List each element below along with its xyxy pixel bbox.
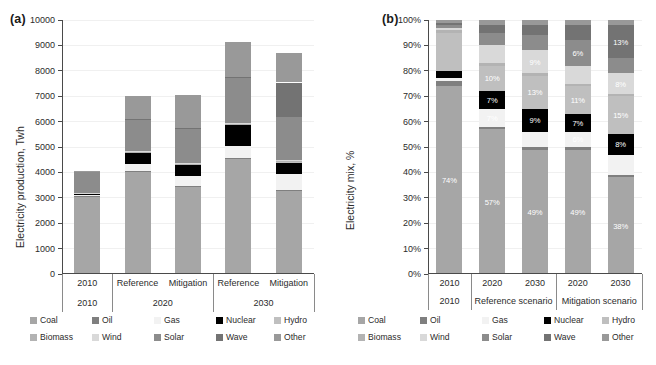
bar-segment-biomass[interactable] [125,152,151,153]
bar-segment-other[interactable] [225,42,251,76]
bar-segment-nuclear[interactable] [125,153,151,164]
bar-segment-oil[interactable] [74,196,100,197]
bar-segment-hydro[interactable]: 10% [479,66,505,91]
bar-segment-gas[interactable] [175,176,201,186]
bar-segment-wave[interactable] [125,119,151,120]
bar-segment-solar[interactable] [436,25,462,28]
legend-item[interactable]: Biomass [30,333,73,342]
bar-segment-oil[interactable] [125,171,151,172]
bar-segment-other[interactable] [608,20,634,25]
legend-item[interactable]: Coal [358,316,386,325]
bar-segment-hydro[interactable]: 15% [608,96,634,134]
bar-segment-hydro[interactable] [74,193,100,194]
bar-segment-gas[interactable] [436,78,462,81]
bar-segment-hydro[interactable]: 11% [565,86,591,114]
legend-item[interactable]: Wave [216,333,248,342]
legend-item[interactable]: Wind [92,333,122,342]
bar-segment-biomass[interactable] [565,84,591,87]
legend-item[interactable]: Solar [154,333,184,342]
bar-segment-coal[interactable]: 49% [565,150,591,274]
legend-item[interactable]: Oil [92,316,113,325]
bar-segment-gas[interactable] [522,132,548,147]
bar-segment-solar[interactable] [74,172,100,193]
bar-segment-other[interactable] [522,20,548,25]
bar-segment-biomass[interactable] [522,73,548,76]
bar-segment-solar[interactable] [225,77,251,123]
bar-segment-nuclear[interactable]: 8% [608,134,634,154]
bar-segment-hydro[interactable] [225,124,251,125]
bar-segment-wind[interactable] [125,151,151,152]
bar-segment-wind[interactable] [436,28,462,31]
bar-segment-coal[interactable]: 38% [608,177,634,274]
bar-segment-hydro[interactable] [276,161,302,162]
bar-segment-gas[interactable]: 7% [479,109,505,127]
bar-segment-solar[interactable]: 6% [565,40,591,65]
stacked-bar[interactable] [125,20,151,274]
bar-segment-wind[interactable] [225,123,251,124]
legend-item[interactable]: Wave [544,333,576,342]
bar-segment-wave[interactable] [565,25,591,40]
stacked-bar[interactable] [276,20,302,274]
bar-segment-wind[interactable] [479,45,505,63]
bar-segment-oil[interactable] [608,175,634,178]
bar-segment-solar[interactable] [608,58,634,73]
bar-segment-coal[interactable]: 74% [436,86,462,274]
bar-segment-hydro[interactable] [175,164,201,165]
legend-item[interactable]: Nuclear [544,316,584,325]
bar-segment-oil[interactable] [436,81,462,86]
bar-segment-other[interactable] [125,96,151,119]
legend-item[interactable]: Other [274,333,306,342]
legend-item[interactable]: Coal [30,316,58,325]
bar-segment-solar[interactable] [522,35,548,50]
bar-segment-nuclear[interactable] [436,71,462,79]
bar-segment-coal[interactable] [175,187,201,274]
bar-segment-nuclear[interactable] [74,194,100,196]
bar-segment-coal[interactable] [276,191,302,274]
bar-segment-coal[interactable]: 57% [479,129,505,274]
bar-segment-wave[interactable] [276,83,302,118]
bar-segment-other[interactable] [565,20,591,25]
bar-segment-coal[interactable] [74,196,100,274]
bar-segment-biomass[interactable] [479,63,505,66]
stacked-bar[interactable]: 49%6%7%11%6% [565,20,591,274]
bar-segment-wave[interactable] [479,25,505,33]
stacked-bar[interactable] [74,20,100,274]
bar-segment-nuclear[interactable]: 9% [522,109,548,132]
bar-segment-oil[interactable] [522,147,548,150]
bar-segment-biomass[interactable] [225,124,251,125]
bar-segment-wave[interactable]: 13% [608,25,634,58]
legend-item[interactable]: Biomass [358,333,401,342]
bar-segment-gas[interactable] [608,155,634,175]
bar-segment-oil[interactable] [479,127,505,130]
bar-segment-other[interactable] [436,20,462,23]
legend-item[interactable]: Wind [420,333,450,342]
legend-item[interactable]: Solar [482,333,512,342]
bar-segment-biomass[interactable] [276,161,302,162]
legend-item[interactable]: Gas [482,316,508,325]
bar-segment-gas[interactable] [125,164,151,171]
bar-segment-wave[interactable] [225,77,251,78]
stacked-bar[interactable]: 38%8%15%8%13% [608,20,634,274]
bar-segment-hydro[interactable]: 13% [522,76,548,109]
bar-segment-coal[interactable] [125,171,151,274]
bar-segment-other[interactable] [479,20,505,25]
bar-segment-solar[interactable] [125,120,151,151]
stacked-bar[interactable]: 57%7%7%10% [479,20,505,274]
bar-segment-coal[interactable]: 49% [522,150,548,274]
bar-segment-oil[interactable] [225,158,251,159]
legend-item[interactable]: Other [602,333,634,342]
bar-segment-oil[interactable] [175,186,201,187]
bar-segment-solar[interactable] [276,117,302,160]
bar-segment-nuclear[interactable]: 7% [565,114,591,132]
legend-item[interactable]: Hydro [602,316,635,325]
bar-segment-wind[interactable]: 9% [522,50,548,73]
stacked-bar[interactable] [225,20,251,274]
bar-segment-solar[interactable] [175,128,201,163]
bar-segment-nuclear[interactable] [175,165,201,176]
bar-segment-gas[interactable] [225,146,251,158]
bar-segment-wave[interactable] [175,128,201,129]
bar-segment-biomass[interactable] [175,164,201,165]
bar-segment-wind[interactable] [175,163,201,164]
bar-segment-oil[interactable] [276,190,302,191]
bar-segment-oil[interactable] [565,147,591,150]
